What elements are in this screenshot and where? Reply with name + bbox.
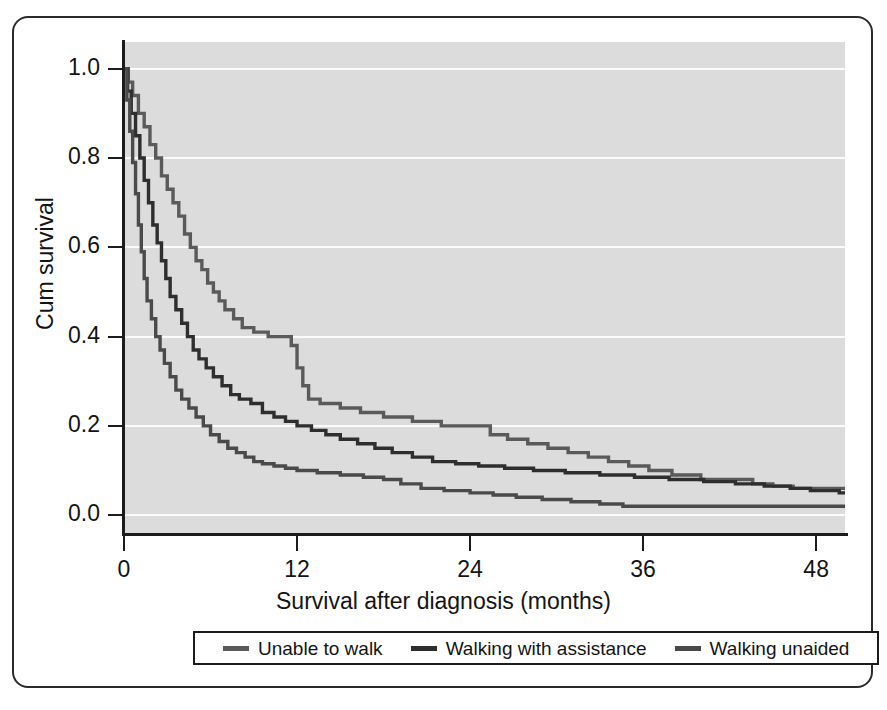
x-tick-label-12: 12 xyxy=(257,556,337,582)
survival-chart-figure: 0.00.20.40.60.81.0 012243648 Cum surviva… xyxy=(0,0,887,710)
legend-label: Walking with assistance xyxy=(446,639,647,658)
x-tick-label-48: 48 xyxy=(776,556,856,582)
y-tick-mark-0.2 xyxy=(108,425,124,427)
legend-line-icon xyxy=(411,646,437,651)
x-tick-mark-36 xyxy=(642,536,644,551)
x-tick-label-24: 24 xyxy=(430,556,510,582)
y-axis-line xyxy=(122,40,125,535)
y-tick-mark-0.4 xyxy=(108,336,124,338)
y-tick-mark-0.6 xyxy=(108,246,124,248)
legend-item-unable-to-walk: Unable to walk xyxy=(223,639,383,658)
x-tick-label-36: 36 xyxy=(603,556,683,582)
x-axis-title: Survival after diagnosis (months) xyxy=(0,588,887,615)
x-tick-mark-0 xyxy=(123,536,125,551)
y-tick-mark-0.0 xyxy=(108,514,124,516)
legend-line-icon xyxy=(675,646,701,651)
plot-region xyxy=(124,42,845,533)
curve-walking-with-assistance xyxy=(124,69,845,493)
legend-label: Walking unaided xyxy=(710,639,850,658)
x-tick-label-0: 0 xyxy=(84,556,164,582)
survival-curves xyxy=(124,42,845,533)
curve-unable-to-walk xyxy=(124,69,845,489)
legend-item-walking-with-assistance: Walking with assistance xyxy=(411,639,647,658)
legend-item-walking-unaided: Walking unaided xyxy=(675,639,850,658)
curve-walking-unaided xyxy=(124,69,845,506)
plot-area xyxy=(124,42,845,533)
legend-line-icon xyxy=(223,646,249,651)
y-axis-title: Cum survival xyxy=(32,114,59,414)
x-tick-mark-24 xyxy=(469,536,471,551)
x-axis-line xyxy=(122,533,848,536)
y-tick-mark-0.8 xyxy=(108,157,124,159)
y-tick-mark-1.0 xyxy=(108,68,124,70)
chart-legend: Unable to walkWalking with assistanceWal… xyxy=(193,631,879,665)
legend-label: Unable to walk xyxy=(258,639,383,658)
y-tick-label-0.0: 0.0 xyxy=(30,502,100,525)
x-tick-mark-48 xyxy=(815,536,817,551)
x-tick-mark-12 xyxy=(296,536,298,551)
y-tick-label-1.0: 1.0 xyxy=(30,56,100,79)
y-tick-label-0.2: 0.2 xyxy=(30,413,100,436)
